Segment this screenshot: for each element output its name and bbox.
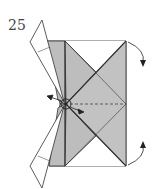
origami-diagram (0, 0, 156, 189)
curved-arrow-down-icon (128, 42, 143, 63)
